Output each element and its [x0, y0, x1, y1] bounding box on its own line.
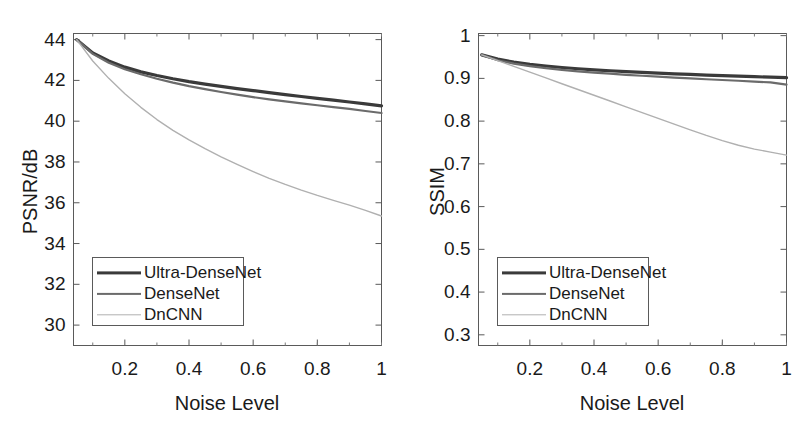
ssim-xtick-label: 1: [781, 358, 792, 380]
psnr-xtick-label: 0.2: [112, 358, 138, 380]
ssim-legend: Ultra-DenseNetDenseNetDnCNN: [497, 257, 649, 326]
ssim-ytick-label: 0.8: [405, 110, 471, 132]
psnr-curve-ultra-densenet: [77, 40, 382, 106]
legend-line-swatch-icon: [502, 267, 546, 279]
psnr-x-axis-label: Noise Level: [117, 392, 337, 415]
ssim-data-curves: [482, 55, 787, 155]
legend-line-swatch-icon: [502, 288, 546, 300]
ssim-x-axis-label: Noise Level: [522, 392, 742, 415]
figure-two-panel-line-charts: 3032343638404244 0.20.40.60.81 PSNR/dB N…: [0, 0, 811, 431]
ssim-legend-item: DnCNN: [502, 304, 642, 325]
ssim-ytick-label: 0.3: [405, 324, 471, 346]
psnr-xtick-label: 0.6: [240, 358, 266, 380]
ssim-curve-dncnn: [482, 55, 787, 155]
psnr-ytick-label: 42: [0, 69, 66, 91]
legend-line-swatch-icon: [97, 267, 141, 279]
ssim-legend-label: Ultra-DenseNet: [549, 264, 666, 281]
psnr-legend-label: DnCNN: [144, 306, 203, 323]
ssim-xtick-label: 0.2: [517, 358, 543, 380]
psnr-y-axis-label: PSNR/dB: [19, 137, 42, 247]
psnr-data-curves: [77, 40, 382, 216]
ssim-legend-label: DnCNN: [549, 306, 608, 323]
ssim-y-axis-label: SSIM: [426, 137, 449, 247]
psnr-ytick-label: 30: [0, 314, 66, 336]
psnr-xtick-label: 1: [376, 358, 387, 380]
ssim-xtick-label: 0.8: [709, 358, 735, 380]
ssim-curve-densenet: [482, 55, 787, 85]
psnr-legend-item: DnCNN: [97, 304, 237, 325]
ssim-legend-item: Ultra-DenseNet: [502, 262, 642, 283]
ssim-xtick-label: 0.6: [645, 358, 671, 380]
legend-line-swatch-icon: [97, 309, 141, 321]
psnr-legend-label: DenseNet: [144, 285, 220, 302]
ssim-xtick-label: 0.4: [581, 358, 607, 380]
psnr-legend-label: Ultra-DenseNet: [144, 264, 261, 281]
psnr-legend: Ultra-DenseNetDenseNetDnCNN: [92, 257, 244, 326]
panel-psnr: 3032343638404244 0.20.40.60.81 PSNR/dB N…: [0, 0, 405, 431]
legend-line-swatch-icon: [97, 288, 141, 300]
ssim-ytick-label: 1: [405, 25, 471, 47]
psnr-plot-svg: [0, 0, 405, 431]
panel-ssim: 0.30.40.50.60.70.80.91 0.20.40.60.81 SSI…: [405, 0, 811, 431]
psnr-legend-item: Ultra-DenseNet: [97, 262, 237, 283]
psnr-xtick-label: 0.8: [304, 358, 330, 380]
psnr-ytick-label: 44: [0, 29, 66, 51]
legend-line-swatch-icon: [502, 309, 546, 321]
psnr-ytick-label: 32: [0, 273, 66, 295]
psnr-ytick-label: 40: [0, 110, 66, 132]
ssim-legend-label: DenseNet: [549, 285, 625, 302]
ssim-legend-item: DenseNet: [502, 283, 642, 304]
psnr-xtick-label: 0.4: [176, 358, 202, 380]
psnr-legend-item: DenseNet: [97, 283, 237, 304]
ssim-ytick-label: 0.9: [405, 67, 471, 89]
ssim-ytick-label: 0.4: [405, 281, 471, 303]
